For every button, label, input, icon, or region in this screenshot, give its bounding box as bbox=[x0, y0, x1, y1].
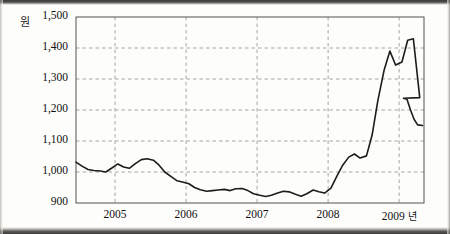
line-chart-plot bbox=[0, 0, 450, 234]
chart-figure: 원 9001,0001,1001,2001,3001,4001,500 2005… bbox=[0, 0, 450, 234]
series-line-exchange-rate bbox=[76, 39, 423, 197]
data-series-line bbox=[76, 39, 423, 197]
grid-lines bbox=[76, 17, 424, 203]
